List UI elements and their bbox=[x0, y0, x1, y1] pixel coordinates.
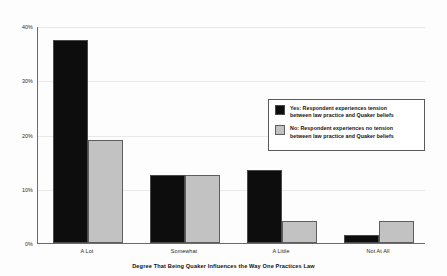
bar-somewhat-yes bbox=[150, 175, 185, 243]
legend-label-yes: Yes: Respondent experiences tension betw… bbox=[290, 105, 394, 119]
y-tick-label-0: 0% bbox=[3, 241, 33, 247]
bar-group-a-lot bbox=[53, 27, 123, 243]
legend-label-no-line1: No: Respondent experiences no tension bbox=[290, 125, 394, 132]
legend-entry-yes: Yes: Respondent experiences tension betw… bbox=[275, 105, 424, 119]
x-tick-label-a-lot: A Lot bbox=[81, 248, 94, 254]
bar-a-little-yes bbox=[247, 170, 282, 243]
y-tick-label-20: 20% bbox=[3, 133, 33, 139]
legend-swatch-yes-icon bbox=[275, 105, 285, 115]
bar-not-at-all-no bbox=[379, 221, 414, 243]
chart-legend: Yes: Respondent experiences tension betw… bbox=[268, 99, 425, 151]
y-tick-label-30: 30% bbox=[3, 78, 33, 84]
x-tick-label-not-at-all: Not At All bbox=[367, 248, 390, 254]
bar-somewhat-no bbox=[185, 175, 220, 243]
y-tick-label-10: 10% bbox=[3, 187, 33, 193]
x-tick-label-a-little: A Little bbox=[273, 248, 290, 254]
bar-not-at-all-yes bbox=[344, 235, 379, 243]
bar-group-somewhat bbox=[150, 27, 220, 243]
legend-entry-no: No: Respondent experiences no tension be… bbox=[275, 125, 424, 139]
legend-label-no: No: Respondent experiences no tension be… bbox=[290, 125, 394, 139]
legend-label-yes-line2: between law practice and Quaker beliefs bbox=[290, 112, 394, 119]
y-tick-label-40: 40% bbox=[3, 24, 33, 30]
legend-swatch-no-icon bbox=[275, 125, 285, 135]
legend-label-yes-line1: Yes: Respondent experiences tension bbox=[290, 105, 394, 112]
bar-a-little-no bbox=[282, 221, 317, 243]
bar-a-lot-yes bbox=[53, 40, 88, 243]
x-axis-title: Degree That Being Quaker Influences the … bbox=[0, 263, 447, 269]
bar-chart: 40% 30% 20% 10% 0% bbox=[0, 0, 447, 276]
x-tick-label-somewhat: Somewhat bbox=[171, 248, 197, 254]
legend-label-no-line2: between law practice and Quaker beliefs bbox=[290, 133, 394, 140]
bar-a-lot-no bbox=[88, 140, 123, 243]
